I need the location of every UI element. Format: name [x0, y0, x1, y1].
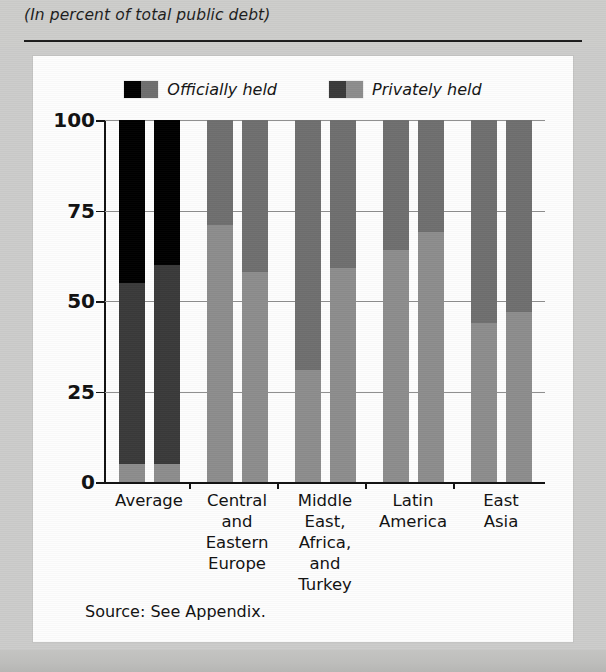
legend-swatch-left [124, 81, 141, 98]
bar-segment [506, 312, 532, 482]
category-label-line: and [281, 553, 369, 574]
bar-segment [418, 232, 444, 482]
bar-segment [207, 120, 233, 225]
category-label-line: Eastern [193, 532, 281, 553]
stacked-bar [154, 120, 180, 482]
legend-swatch-right [141, 81, 158, 98]
category-label-line: Average [105, 490, 193, 511]
legend-label: Privately held [372, 80, 482, 99]
plot-area [105, 120, 545, 482]
bar-segment [471, 120, 497, 323]
chart-card: Officially heldPrivately held 0255075100… [33, 56, 573, 642]
y-axis-tick-label: 75 [67, 199, 95, 223]
y-axis-tick [96, 301, 105, 303]
category-label: EastAsia [457, 490, 545, 532]
bar-segment [119, 120, 145, 283]
bar-segment [154, 120, 180, 265]
category-label: LatinAmerica [369, 490, 457, 532]
category-label-line: Latin [369, 490, 457, 511]
category-label-line: Asia [457, 511, 545, 532]
category-label-line: East [457, 490, 545, 511]
y-axis-tick [96, 392, 105, 394]
x-axis-tick [453, 482, 455, 489]
figure-header: (In percent of total public debt) [0, 0, 606, 47]
stacked-bar [207, 120, 233, 482]
stacked-bar [330, 120, 356, 482]
x-axis-line [104, 482, 545, 484]
stacked-bar [295, 120, 321, 482]
bar-segment [295, 120, 321, 370]
legend-item: Officially held [124, 80, 277, 99]
scan-bottom-edge [0, 650, 606, 672]
category-label: Average [105, 490, 193, 511]
x-axis-tick [277, 482, 279, 489]
source-note: Source: See Appendix. [85, 602, 266, 621]
figure-subtitle: (In percent of total public debt) [24, 6, 270, 24]
x-axis-category-labels: AverageCentralandEasternEuropeMiddleEast… [105, 490, 545, 600]
category-label-line: Africa, [281, 532, 369, 553]
bar-segment [242, 272, 268, 482]
bar-segment [383, 250, 409, 482]
y-axis-tick [96, 482, 105, 484]
bar-segment [119, 464, 145, 482]
bar-segment [471, 323, 497, 482]
stacked-bar [383, 120, 409, 482]
y-axis-tick-labels: 0255075100 [33, 120, 95, 482]
category-label: CentralandEasternEurope [193, 490, 281, 574]
bar-segment [330, 120, 356, 268]
category-label-line: Turkey [281, 574, 369, 595]
bars-layer [105, 120, 545, 482]
legend-item: Privately held [329, 80, 482, 99]
category-label-line: East, [281, 511, 369, 532]
legend-swatch-right [346, 81, 363, 98]
legend-label: Officially held [167, 80, 277, 99]
bar-segment [207, 225, 233, 482]
y-axis-tick [96, 211, 105, 213]
bar-segment [154, 464, 180, 482]
stacked-bar [418, 120, 444, 482]
y-axis-tick-label: 25 [67, 380, 95, 404]
y-axis-tick-label: 50 [67, 289, 95, 313]
legend-swatch-icon [329, 81, 363, 98]
x-axis-tick [365, 482, 367, 489]
category-label-line: Central [193, 490, 281, 511]
bar-segment [330, 268, 356, 482]
header-rule [24, 40, 582, 42]
category-label: MiddleEast,Africa,andTurkey [281, 490, 369, 595]
x-axis-tick [189, 482, 191, 489]
stacked-bar [119, 120, 145, 482]
stacked-bar [506, 120, 532, 482]
legend-swatch-icon [124, 81, 158, 98]
y-axis-tick [96, 120, 105, 122]
category-label-line: and [193, 511, 281, 532]
bar-segment [295, 370, 321, 482]
legend-swatch-left [329, 81, 346, 98]
bar-segment [418, 120, 444, 232]
stacked-bar [471, 120, 497, 482]
y-axis-tick-label: 100 [53, 108, 95, 132]
bar-segment [242, 120, 268, 272]
bar-segment [506, 120, 532, 312]
chart-legend: Officially heldPrivately held [33, 80, 573, 99]
bar-segment [383, 120, 409, 250]
category-label-line: America [369, 511, 457, 532]
category-label-line: Middle [281, 490, 369, 511]
bar-segment [119, 283, 145, 464]
stacked-bar [242, 120, 268, 482]
y-axis-tick-label: 0 [81, 470, 95, 494]
bar-segment [154, 265, 180, 464]
category-label-line: Europe [193, 553, 281, 574]
